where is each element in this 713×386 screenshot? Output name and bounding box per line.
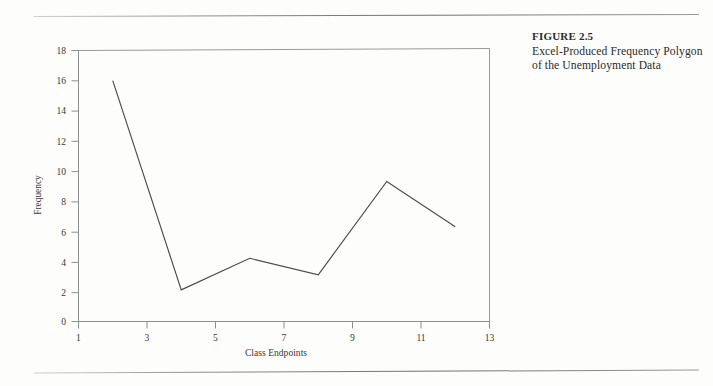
y-axis-tick-labels: 18 16 14 12 10 8 6 4 2 0: [56, 45, 66, 327]
frequency-polygon-chart: 18 16 14 12 10 8 6 4 2 0 1 3 5 7 9: [0, 0, 520, 386]
y-tick-label: 8: [61, 196, 66, 207]
plot-frame: [79, 49, 490, 322]
y-tick-label: 2: [61, 287, 66, 298]
figure-caption: FIGURE 2.5 Excel-Produced Frequency Poly…: [532, 30, 708, 74]
x-tick-label: 11: [416, 332, 425, 343]
y-tick-label: 10: [56, 166, 66, 177]
x-tick-label: 5: [213, 332, 218, 343]
chart-svg: 18 16 14 12 10 8 6 4 2 0 1 3 5 7 9: [0, 0, 520, 386]
figure-number: FIGURE 2.5: [532, 30, 708, 44]
frequency-polygon-line: [113, 81, 456, 290]
y-tick-label: 18: [56, 45, 66, 56]
x-axis-tick-labels: 1 3 5 7 9 11 13: [76, 332, 494, 343]
y-tick-label: 6: [61, 227, 66, 238]
y-tick-label: 12: [56, 136, 66, 147]
x-tick-label: 1: [76, 332, 81, 343]
x-axis-title: Class Endpoints: [245, 347, 307, 358]
y-tick-label: 14: [56, 105, 66, 116]
y-axis-ticks: [72, 51, 79, 322]
x-tick-label: 13: [485, 332, 495, 343]
x-tick-label: 9: [350, 332, 355, 343]
y-tick-label: 16: [56, 75, 66, 86]
x-axis-ticks: [79, 322, 490, 329]
figure-description: Excel-Produced Frequency Polygon of the …: [532, 45, 708, 74]
y-tick-label: 0: [61, 316, 66, 327]
x-tick-label: 3: [145, 332, 150, 343]
x-tick-label: 7: [282, 332, 287, 343]
y-axis-title: Frequency: [33, 175, 43, 215]
y-tick-label: 4: [61, 257, 66, 268]
